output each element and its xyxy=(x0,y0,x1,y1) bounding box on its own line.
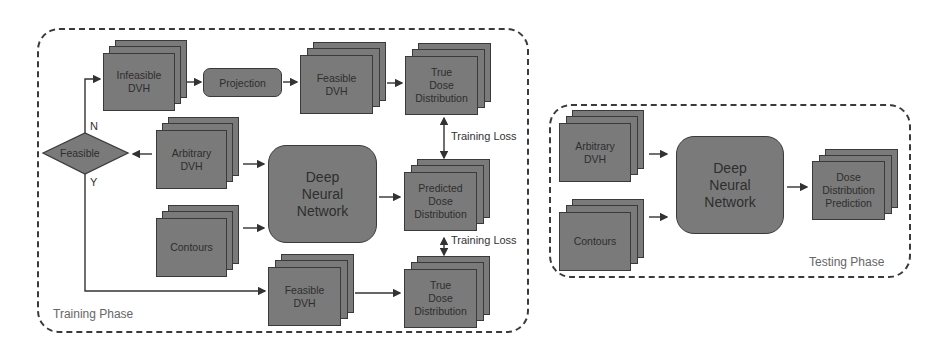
true-dose-bottom-stack: True Dose Distribution xyxy=(404,256,490,328)
test-arbitrary-dvh-stack: Arbitrary DVH xyxy=(559,110,644,182)
test-output-stack: Dose Distribution Prediction xyxy=(812,149,898,220)
true-dose-top-stack: True Dose Distribution xyxy=(405,43,491,115)
test-contours-stack: Contours xyxy=(559,199,644,271)
test-dnn-box: Deep Neural Network xyxy=(676,136,784,234)
feasible-dvh-top-stack: Feasible DVH xyxy=(300,42,386,114)
branch-no-label: N xyxy=(90,120,98,132)
dnn-box: Deep Neural Network xyxy=(268,145,377,243)
infeasible-dvh-label: Infeasible DVH xyxy=(103,53,175,111)
arbitrary-dvh-stack: Arbitrary DVH xyxy=(156,117,239,189)
training-loss-top-label: Training Loss xyxy=(451,130,517,142)
true-dose-bottom-label: True Dose Distribution xyxy=(404,269,477,328)
feasible-dvh-bottom-label: Feasible DVH xyxy=(268,267,341,326)
infeasible-dvh-stack: Infeasible DVH xyxy=(103,40,187,111)
test-contours-label: Contours xyxy=(559,212,631,271)
projection-box: Projection xyxy=(203,68,282,97)
contours-stack: Contours xyxy=(156,205,239,277)
feasible-dvh-bottom-stack: Feasible DVH xyxy=(268,254,354,326)
test-output-label: Dose Distribution Prediction xyxy=(812,161,885,220)
test-arbitrary-dvh-label: Arbitrary DVH xyxy=(559,123,631,182)
branch-yes-label: Y xyxy=(90,176,97,188)
feasible-dvh-top-label: Feasible DVH xyxy=(300,55,373,114)
predicted-dose-stack: Predicted Dose Distribution xyxy=(404,159,490,231)
true-dose-top-label: True Dose Distribution xyxy=(405,56,478,115)
feasible-decision-label: Feasible xyxy=(60,147,100,159)
training-loss-bottom-label: Training Loss xyxy=(451,234,517,246)
contours-label: Contours xyxy=(156,218,227,277)
arbitrary-dvh-label: Arbitrary DVH xyxy=(156,130,227,189)
predicted-dose-label: Predicted Dose Distribution xyxy=(404,172,477,231)
